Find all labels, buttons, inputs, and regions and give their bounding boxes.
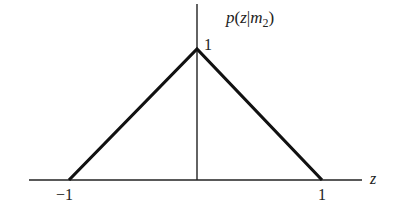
- z-axis-label: z: [369, 170, 377, 187]
- peak-label: 1: [204, 36, 212, 53]
- tick-label-minus-one: −1: [56, 186, 73, 203]
- triangular-density-diagram: p(z|m2) 1 −1 1 z: [0, 0, 394, 206]
- function-label: p(z|m2): [225, 8, 274, 30]
- density-curve: [69, 49, 322, 180]
- tick-label-one: 1: [318, 186, 326, 203]
